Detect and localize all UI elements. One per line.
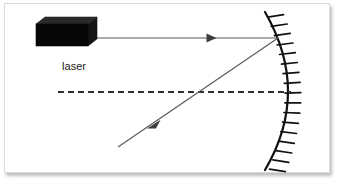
incident-ray bbox=[88, 34, 278, 43]
laser-top-face bbox=[36, 17, 97, 24]
optics-diagram: laser bbox=[0, 0, 340, 181]
reflected-ray-arrowhead bbox=[147, 120, 161, 129]
laser-label: laser bbox=[62, 60, 86, 72]
hatch-mark bbox=[270, 169, 286, 172]
hatch-mark bbox=[281, 132, 297, 134]
hatch-mark bbox=[268, 15, 284, 17]
hatch-mark bbox=[279, 141, 295, 143]
hatch-mark bbox=[284, 82, 300, 83]
hatch-mark bbox=[273, 160, 289, 163]
hatch-mark bbox=[283, 72, 299, 73]
hatch-mark bbox=[276, 151, 292, 153]
laser-front-face bbox=[36, 24, 88, 46]
incident-ray-arrowhead bbox=[207, 34, 217, 43]
hatch-mark bbox=[284, 113, 300, 114]
hatch-mark bbox=[285, 93, 301, 94]
laser-source bbox=[36, 17, 97, 46]
hatch-mark bbox=[271, 24, 287, 26]
figure-root: laser bbox=[0, 0, 340, 181]
